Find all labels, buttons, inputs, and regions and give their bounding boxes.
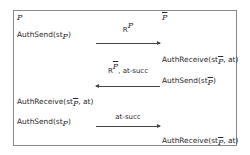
arrow-right-1: [96, 43, 160, 44]
right-step-auth-receive-1: AuthReceive(stP, at): [162, 55, 238, 66]
arrow-left-1: [96, 86, 160, 87]
message-label-at-succ: at-succ: [93, 113, 163, 121]
left-step-auth-receive: AuthReceive(stP, at): [17, 97, 93, 108]
left-step-auth-send-1: AuthSend(stP): [17, 30, 71, 41]
party-right-label: P: [162, 13, 167, 22]
message-label-rp: RP: [93, 26, 163, 34]
left-step-auth-send-2: AuthSend(stP): [17, 117, 71, 128]
arrow-right-2: [96, 126, 160, 127]
message-label-rpbar-at-succ: RP, at-succ: [93, 67, 163, 75]
right-step-auth-send: AuthSend(stP): [162, 76, 216, 87]
right-step-auth-receive-2: AuthReceive(stP, at): [162, 136, 238, 147]
party-left-label: P: [17, 13, 22, 22]
